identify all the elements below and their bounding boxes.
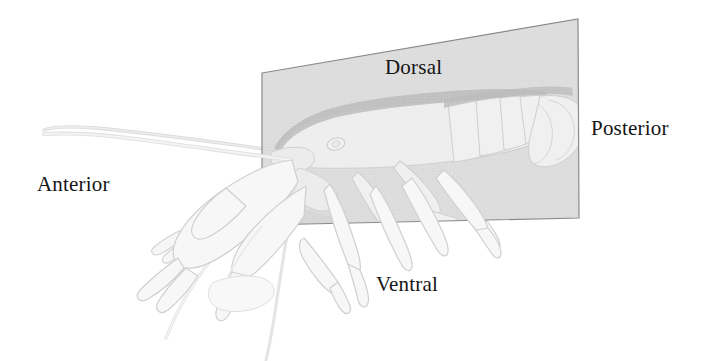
label-dorsal: Dorsal [385,57,442,78]
figure-canvas: Dorsal Posterior Anterior Ventral [0,0,719,361]
label-posterior: Posterior [591,118,669,139]
label-anterior: Anterior [37,174,110,195]
label-ventral: Ventral [376,274,438,295]
